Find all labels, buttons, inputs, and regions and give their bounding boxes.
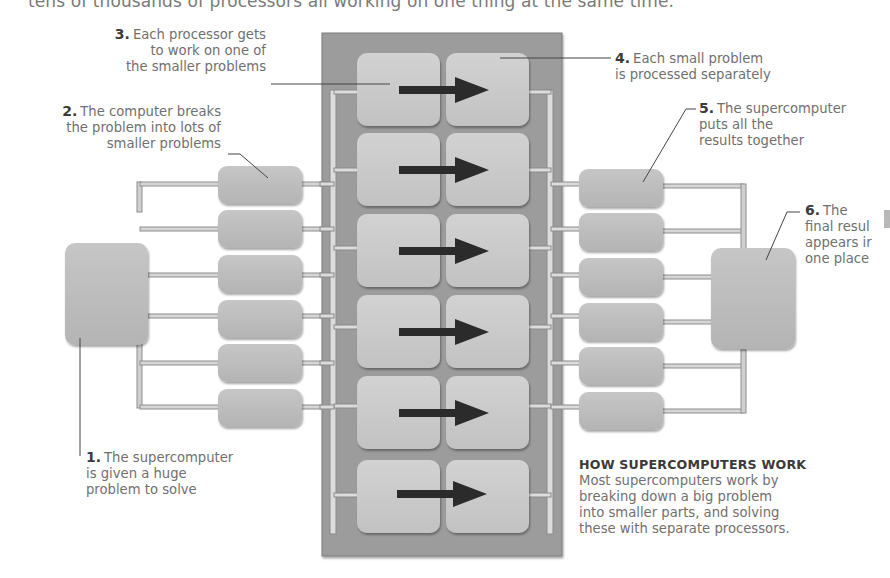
output-result-box (711, 248, 795, 349)
step-1-label: 1.The supercomputer is given a huge prob… (86, 449, 233, 498)
input-problem-box (65, 243, 148, 345)
step-5-label: 5.The supercomputer puts all the results… (699, 100, 846, 149)
info-heading: HOW SUPERCOMPUTERS WORK (579, 457, 806, 473)
step-6-label: 6.The final resul appears ir one place (805, 202, 872, 267)
step-3-label: 3.Each processor gets to work on one of … (72, 26, 266, 75)
step-4-label: 4.Each small problem is processed separa… (615, 50, 771, 83)
merge-boxes (579, 169, 663, 430)
info-box: HOW SUPERCOMPUTERS WORK Most supercomput… (579, 457, 806, 537)
step-2-label: 2.The computer breaks the problem into l… (18, 103, 221, 152)
split-boxes (218, 166, 302, 427)
processor-panel (320, 33, 581, 556)
